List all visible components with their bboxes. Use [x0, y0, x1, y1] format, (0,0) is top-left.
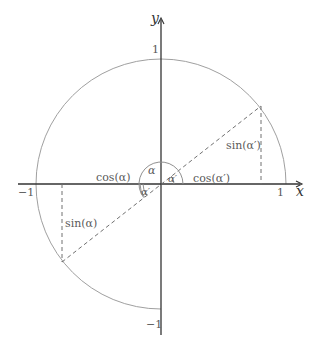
- y-tick-pos: 1: [152, 44, 159, 55]
- cos-alpha-label: cos(α): [96, 172, 130, 183]
- cos-alpha-prime-label: cos(α′): [193, 173, 230, 184]
- sin-alpha-prime-label: sin(α′): [226, 140, 261, 151]
- alpha-label: α: [148, 165, 155, 176]
- y-tick-neg: −1: [146, 319, 162, 330]
- alpha-prime-lower-label: α′: [141, 187, 150, 197]
- alpha-prime-upper-label: α′: [168, 174, 177, 184]
- x-tick-pos: 1: [277, 187, 284, 198]
- unit-circle-diagram: y x 1 −1 1 −1 α α′ α′ cos(α) cos(α′) sin…: [0, 0, 312, 349]
- sin-alpha-label: sin(α): [65, 218, 97, 229]
- x-axis-label: x: [296, 184, 304, 198]
- y-axis-label: y: [151, 11, 159, 25]
- x-tick-neg: −1: [18, 187, 34, 198]
